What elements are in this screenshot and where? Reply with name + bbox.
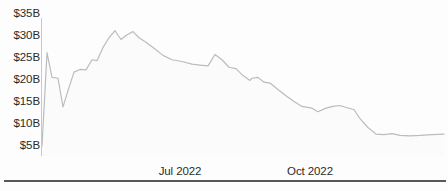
- bottom-divider-rule: [4, 180, 446, 182]
- chart-container: $35B$30B$25B$20B$15B$10B$5B Jul 2022Oct …: [0, 0, 448, 191]
- chart-plot-area: [0, 0, 448, 191]
